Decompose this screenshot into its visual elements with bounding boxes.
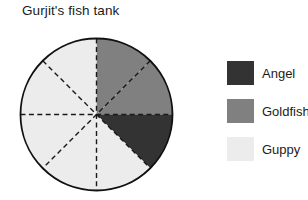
legend: Angel Goldfish Guppy bbox=[227, 54, 308, 168]
legend-item-angel[interactable]: Angel bbox=[227, 54, 308, 92]
legend-swatch-guppy bbox=[227, 137, 254, 161]
legend-swatch-goldfish bbox=[227, 99, 254, 123]
legend-item-goldfish[interactable]: Goldfish bbox=[227, 92, 308, 130]
legend-label-angel: Angel bbox=[262, 67, 295, 80]
chart-title: Gurjit's fish tank bbox=[22, 3, 119, 18]
legend-label-guppy: Guppy bbox=[262, 143, 300, 156]
pie-chart-svg bbox=[17, 35, 176, 194]
pie-chart bbox=[17, 35, 176, 194]
legend-swatch-angel bbox=[227, 61, 254, 85]
legend-item-guppy[interactable]: Guppy bbox=[227, 130, 308, 168]
legend-label-goldfish: Goldfish bbox=[262, 105, 308, 118]
